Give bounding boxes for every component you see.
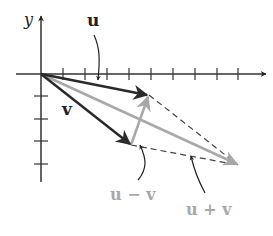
leader-u-plus-v <box>191 156 205 193</box>
label-u: u <box>87 10 99 30</box>
y-axis-label: y <box>23 10 34 29</box>
leader-u-minus-v <box>138 145 145 180</box>
axes: y <box>16 10 266 182</box>
label-v: v <box>61 99 73 119</box>
label-u-plus-v: u + v <box>186 200 232 219</box>
vector-diagram: y u v u − v u + v <box>0 0 273 236</box>
vector-u <box>41 74 147 95</box>
parallelogram-dashes <box>131 95 238 165</box>
label-u-minus-v: u − v <box>110 185 156 204</box>
